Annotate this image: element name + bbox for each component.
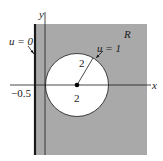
diagram-canvas: y x R u = 0 u = 1 2 2 −0.5 bbox=[0, 0, 163, 161]
x-axis-label: x bbox=[151, 79, 157, 91]
center-x-label: 2 bbox=[74, 92, 80, 104]
radius-value-label: 2 bbox=[79, 57, 85, 69]
center-point bbox=[75, 83, 80, 88]
left-line-position-label: −0.5 bbox=[11, 87, 31, 99]
y-axis-label: y bbox=[38, 8, 44, 20]
u0-label: u = 0 bbox=[9, 35, 33, 47]
region-label: R bbox=[123, 28, 131, 40]
u1-label: u = 1 bbox=[97, 42, 121, 54]
